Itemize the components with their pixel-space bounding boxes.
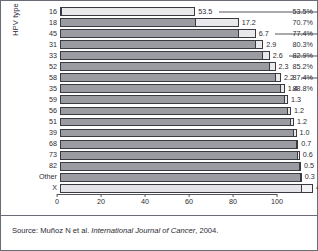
bar-track: 2.2 (60, 72, 313, 83)
cumulative-percent-label (277, 116, 313, 127)
category-label: 51 (23, 118, 60, 126)
category-label: 45 (23, 30, 60, 38)
bar-track: 17.2 (60, 17, 313, 28)
bar-row: 582.2 (23, 72, 313, 83)
source-suffix: , 2004. (195, 226, 218, 235)
bar-row: 391.0 (23, 128, 313, 139)
bar-row: 820.5 (23, 161, 313, 172)
bar (60, 40, 263, 49)
bar-value-label: 4.4 (316, 184, 318, 192)
bar (60, 95, 288, 104)
cumulative-percent-label: 53.5% (277, 6, 313, 17)
bar-row: Other0.3 (23, 172, 313, 183)
category-label: 39 (23, 129, 60, 137)
bar-row: 332.6 (23, 50, 313, 61)
cumulative-percent-label (277, 128, 313, 139)
source-band: Source: Muñoz N et al. International Jou… (1, 215, 317, 250)
bar-track: 4.4 (60, 183, 313, 194)
bar-increment-segment (262, 52, 269, 59)
bar (60, 29, 256, 38)
chart-plot-area: HPV type 1653.51817.2456.7312.9332.6522.… (1, 1, 317, 217)
bar-track: 0.6 (60, 150, 313, 161)
bar-track: 1.2 (60, 116, 313, 127)
x-axis-tick-label: 20 (97, 198, 105, 206)
category-label: Other (23, 173, 60, 181)
category-label: 68 (23, 140, 60, 148)
bar-row: 1653.5 (23, 6, 313, 17)
bar-track: 1.2 (60, 105, 313, 116)
bar (60, 62, 276, 71)
category-label: 73 (23, 151, 60, 159)
x-axis-line (57, 194, 277, 195)
bar (60, 73, 281, 82)
bar-track: 1.4 (60, 83, 313, 94)
bar-track: 2.6 (60, 50, 313, 61)
cumulative-percent-label (277, 161, 313, 172)
bar-row: 730.6 (23, 150, 313, 161)
cumulative-percent-column: 53.5%70.7%77.4%80.3%82.9%85.2%87.4%88.8% (277, 6, 313, 194)
source-citation: Source: Muñoz N et al. International Jou… (12, 226, 218, 236)
cumulative-percent-label (277, 105, 313, 116)
category-label: 56 (23, 107, 60, 115)
bar-track: 0.5 (60, 161, 313, 172)
bar-increment-segment (255, 41, 262, 48)
bar-value-label: 6.7 (259, 30, 269, 38)
bar-row: 522.3 (23, 61, 313, 72)
category-label: 52 (23, 63, 60, 71)
bar-increment-segment (61, 8, 194, 15)
bar-row: 680.7 (23, 139, 313, 150)
bar-row: 456.7 (23, 28, 313, 39)
cumulative-percent-label: 80.3% (277, 39, 313, 50)
bar (60, 162, 301, 171)
x-axis-tick-label: 80 (229, 198, 237, 206)
bar-track: 6.7 (60, 28, 313, 39)
category-label: 33 (23, 52, 60, 60)
bar (60, 184, 313, 193)
bar-track: 0.7 (60, 139, 313, 150)
cumulative-percent-label: 82.9% (277, 50, 313, 61)
bar-row: 1817.2 (23, 17, 313, 28)
bar-row: X4.4 (23, 183, 313, 194)
cumulative-percent-label: 87.4% (277, 72, 313, 83)
x-axis-tick-label: 40 (141, 198, 149, 206)
cumulative-percent-label (277, 94, 313, 105)
category-label: 35 (23, 85, 60, 93)
bar-row: 312.9 (23, 39, 313, 50)
bar (60, 173, 302, 182)
cumulative-percent-label: 70.7% (277, 17, 313, 28)
x-axis: 020406080100 (57, 194, 277, 216)
category-label: 82 (23, 162, 60, 170)
category-label: 16 (23, 8, 60, 16)
category-label: 31 (23, 41, 60, 49)
x-axis-tick-label: 0 (55, 198, 59, 206)
cumulative-percent-label: 88.8% (277, 83, 313, 94)
bar-increment-segment (238, 30, 255, 37)
bar-track: 2.3 (60, 61, 313, 72)
bar-increment-segment (269, 63, 275, 70)
cumulative-percent-label (277, 183, 313, 194)
category-label: 59 (23, 96, 60, 104)
bar-track: 2.9 (60, 39, 313, 50)
bar-row: 351.4 (23, 83, 313, 94)
cumulative-percent-label (277, 139, 313, 150)
bar-track: 1.0 (60, 128, 313, 139)
bar (60, 140, 298, 149)
bar-value-label: 2.9 (266, 41, 276, 49)
y-axis-title: HPV type (11, 0, 20, 50)
bar (60, 7, 195, 16)
bar (60, 118, 294, 127)
x-axis-tick-label: 60 (185, 198, 193, 206)
bar-value-label: 53.5 (198, 8, 212, 16)
cumulative-percent-label: 85.2% (277, 61, 313, 72)
bar (60, 18, 239, 27)
bar (60, 51, 270, 60)
category-label: X (23, 184, 60, 192)
bar-track: 53.5 (60, 6, 313, 17)
bar-track: 0.3 (60, 172, 313, 183)
bar (60, 84, 285, 93)
bar-row: 591.3 (23, 94, 313, 105)
bar (60, 151, 300, 160)
bar-row: 561.2 (23, 105, 313, 116)
cumulative-percent-label: 77.4% (277, 28, 313, 39)
bar-rows: 1653.51817.2456.7312.9332.6522.3582.2351… (23, 6, 313, 194)
